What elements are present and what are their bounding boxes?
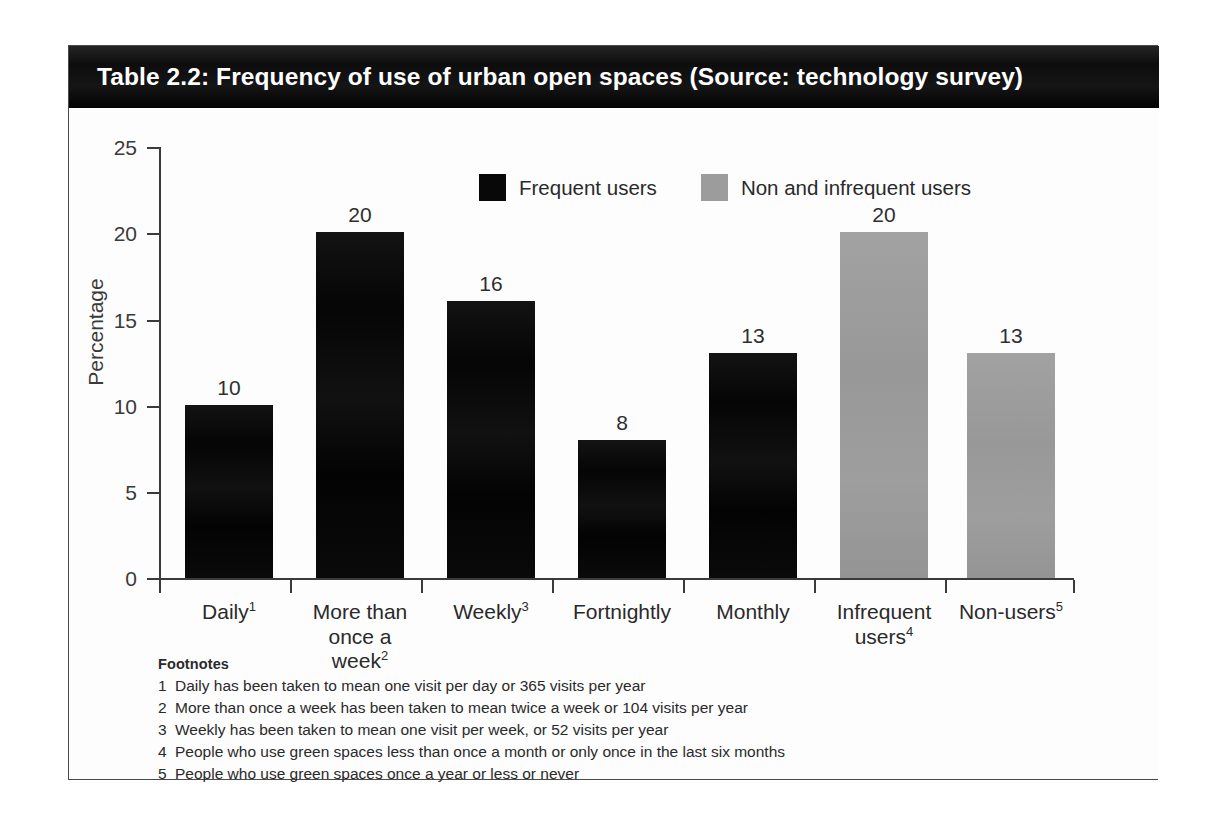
footnote-number-2: 2 bbox=[158, 697, 175, 719]
category-label-infrequent-users-line1: Infrequent bbox=[837, 600, 932, 623]
category-label-non-users-sup: 5 bbox=[1056, 599, 1063, 614]
y-tick-20 bbox=[147, 233, 160, 235]
x-tick-boundary-4 bbox=[683, 580, 685, 593]
footnote-number-5: 5 bbox=[158, 763, 175, 785]
footnote-item-3: 3 Weekly has been taken to mean one visi… bbox=[158, 719, 1078, 741]
category-label-non-users: Non-users5 bbox=[921, 600, 1101, 625]
y-tick-15 bbox=[147, 320, 160, 322]
footnote-number-4: 4 bbox=[158, 741, 175, 763]
footnote-text-2: More than once a week has been taken to … bbox=[175, 697, 1078, 719]
x-tick-boundary-2 bbox=[421, 580, 423, 593]
x-tick-boundary-0 bbox=[159, 580, 161, 593]
bar-fortnightly bbox=[578, 440, 666, 578]
footnote-item-2: 2 More than once a week has been taken t… bbox=[158, 697, 1078, 719]
bar-value-fortnightly: 8 bbox=[616, 411, 628, 435]
footnote-text-4: People who use green spaces less than on… bbox=[175, 741, 1078, 763]
x-axis-line bbox=[159, 578, 1074, 580]
bar-daily bbox=[185, 405, 273, 578]
footnote-text-5: People who use green spaces once a year … bbox=[175, 763, 1078, 785]
bar-infrequent-users bbox=[840, 232, 928, 578]
bar-monthly bbox=[709, 353, 797, 578]
category-label-fortnightly-line1: Fortnightly bbox=[573, 600, 671, 623]
footnote-number-1: 1 bbox=[158, 675, 175, 697]
x-tick-boundary-3 bbox=[552, 580, 554, 593]
category-label-weekly-sup: 3 bbox=[522, 599, 529, 614]
x-tick-boundary-6 bbox=[945, 580, 947, 593]
bar-value-daily: 10 bbox=[217, 376, 240, 400]
figure-frame: Table 2.2: Frequency of use of urban ope… bbox=[68, 45, 1158, 780]
footnote-item-5: 5 People who use green spaces once a yea… bbox=[158, 763, 1078, 785]
bar-value-more-than-once-a-week: 20 bbox=[348, 203, 371, 227]
y-tick-10 bbox=[147, 406, 160, 408]
bar-value-monthly: 13 bbox=[741, 324, 764, 348]
category-label-daily-line1: Daily bbox=[202, 600, 249, 623]
x-tick-boundary-5 bbox=[814, 580, 816, 593]
footnote-text-3: Weekly has been taken to mean one visit … bbox=[175, 719, 1078, 741]
bar-value-infrequent-users: 20 bbox=[872, 203, 895, 227]
chart-body: Frequent users Non and infrequent users … bbox=[69, 108, 1159, 779]
footnote-number-3: 3 bbox=[158, 719, 175, 741]
bar-non-users bbox=[967, 353, 1055, 578]
x-tick-boundary-1 bbox=[290, 580, 292, 593]
y-tick-label-0: 0 bbox=[97, 567, 137, 591]
category-label-infrequent-users-sup: 4 bbox=[906, 624, 913, 639]
footnotes-block: Footnotes 1 Daily has been taken to mean… bbox=[158, 656, 1078, 785]
y-tick-label-25: 25 bbox=[97, 136, 137, 160]
footnote-item-1: 1 Daily has been taken to mean one visit… bbox=[158, 675, 1078, 697]
footnotes-heading: Footnotes bbox=[158, 656, 1078, 672]
category-label-more-than-once-a-week-line2: once a bbox=[328, 625, 391, 648]
bar-value-non-users: 13 bbox=[999, 324, 1022, 348]
y-tick-label-10: 10 bbox=[97, 395, 137, 419]
category-label-non-users-line1: Non-users bbox=[959, 600, 1056, 623]
y-tick-label-5: 5 bbox=[97, 481, 137, 505]
y-axis-line bbox=[159, 147, 161, 580]
category-label-monthly-line1: Monthly bbox=[716, 600, 790, 623]
footnote-text-1: Daily has been taken to mean one visit p… bbox=[175, 675, 1078, 697]
x-tick-boundary-7 bbox=[1073, 580, 1075, 593]
y-tick-25 bbox=[147, 147, 160, 149]
category-label-more-than-once-a-week-line1: More than bbox=[313, 600, 408, 623]
category-label-infrequent-users-line2: users bbox=[855, 625, 906, 648]
footnote-item-4: 4 People who use green spaces less than … bbox=[158, 741, 1078, 763]
bar-weekly bbox=[447, 301, 535, 578]
y-tick-label-20: 20 bbox=[97, 222, 137, 246]
category-label-weekly-line1: Weekly bbox=[453, 600, 521, 623]
figure-title: Table 2.2: Frequency of use of urban ope… bbox=[97, 63, 1023, 91]
bar-value-weekly: 16 bbox=[479, 272, 502, 296]
y-tick-label-15: 15 bbox=[97, 309, 137, 333]
bar-more-than-once-a-week bbox=[316, 232, 404, 578]
category-label-daily-sup: 1 bbox=[249, 599, 256, 614]
figure-title-bar: Table 2.2: Frequency of use of urban ope… bbox=[69, 46, 1159, 108]
y-tick-5 bbox=[147, 492, 160, 494]
